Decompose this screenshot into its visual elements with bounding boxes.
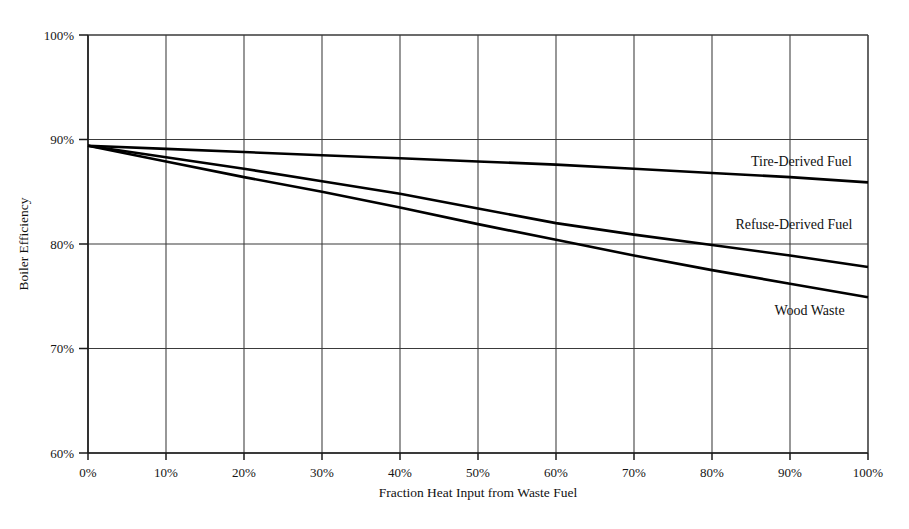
x-tick-label: 50% [466,465,490,480]
line-chart-figure: 0%10%20%30%40%50%60%70%80%90%100% 60%70%… [0,0,909,529]
x-tick-label: 60% [544,465,568,480]
x-tick-label: 30% [310,465,334,480]
y-tick-label: 90% [50,132,74,147]
y-tick-label: 60% [50,446,74,461]
chart-canvas: 0%10%20%30%40%50%60%70%80%90%100% 60%70%… [0,0,909,529]
x-axis-tick-labels: 0%10%20%30%40%50%60%70%80%90%100% [79,465,883,480]
y-axis-title: Boiler Efficiency [16,197,31,290]
axis-tick-marks [79,35,868,460]
series-label-refuse-derived-fuel: Refuse-Derived Fuel [735,217,852,232]
series-label-wood-waste: Wood Waste [774,303,844,318]
x-axis-title: Fraction Heat Input from Waste Fuel [379,485,578,500]
x-tick-label: 80% [700,465,724,480]
x-tick-label: 100% [853,465,884,480]
x-tick-label: 20% [232,465,256,480]
x-tick-label: 90% [778,465,802,480]
y-tick-label: 70% [50,341,74,356]
x-tick-label: 40% [388,465,412,480]
y-axis-tick-labels: 60%70%80%90%100% [44,28,75,461]
x-tick-label: 70% [622,465,646,480]
y-tick-label: 100% [44,28,75,43]
y-tick-label: 80% [50,237,74,252]
series-label-tire-derived-fuel: Tire-Derived Fuel [751,154,852,169]
x-tick-label: 0% [79,465,97,480]
x-tick-label: 10% [154,465,178,480]
